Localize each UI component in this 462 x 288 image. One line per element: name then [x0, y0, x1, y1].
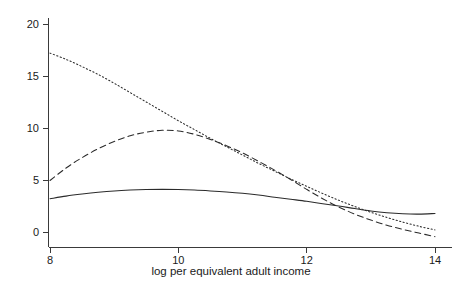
x-axis-title: log per equivalent adult income	[151, 265, 310, 277]
y-tick-label: 20	[27, 18, 39, 30]
y-tick-label: 10	[27, 122, 39, 134]
y-tick-label: 5	[33, 174, 39, 186]
series-group	[50, 53, 435, 237]
x-tick-label: 14	[429, 254, 441, 266]
plot-canvas: 05101520 8101214 log per equivalent adul…	[0, 0, 462, 288]
series-line-dotted-curve	[50, 53, 435, 230]
chart-figure: 05101520 8101214 log per equivalent adul…	[0, 0, 462, 288]
series-line-dashed-curve	[50, 130, 435, 236]
y-tick-labels: 05101520	[27, 18, 39, 238]
x-tick-label: 8	[47, 254, 53, 266]
series-line-solid-curve	[50, 189, 435, 214]
y-tick-label: 15	[27, 70, 39, 82]
tick-marks-group	[43, 24, 435, 253]
y-tick-label: 0	[33, 226, 39, 238]
